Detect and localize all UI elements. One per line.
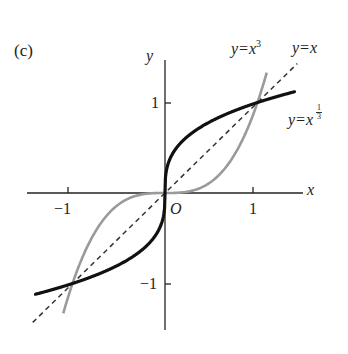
x-tick-label-neg1: −1 <box>54 201 71 217</box>
y-axis-label: y <box>146 48 153 64</box>
label-identity: y=x <box>292 40 317 56</box>
x-axis-label: x <box>307 182 314 198</box>
label-cubic-prefix: y=x <box>231 40 256 57</box>
label-cube-root-prefix: y=x <box>288 111 313 128</box>
y-tick-label-1: 1 <box>151 95 159 111</box>
fraction-one-third: 13 <box>316 104 322 121</box>
y-tick-label-neg1: −1 <box>140 276 157 292</box>
label-cubic: y=x3 <box>231 39 261 57</box>
x-tick-label-1: 1 <box>249 201 257 217</box>
fraction-denominator: 3 <box>316 113 322 121</box>
label-cubic-exp: 3 <box>256 38 261 49</box>
label-cube-root: y=x13 <box>288 104 322 128</box>
origin-label: O <box>170 201 182 217</box>
panel-label: (c) <box>14 42 33 59</box>
